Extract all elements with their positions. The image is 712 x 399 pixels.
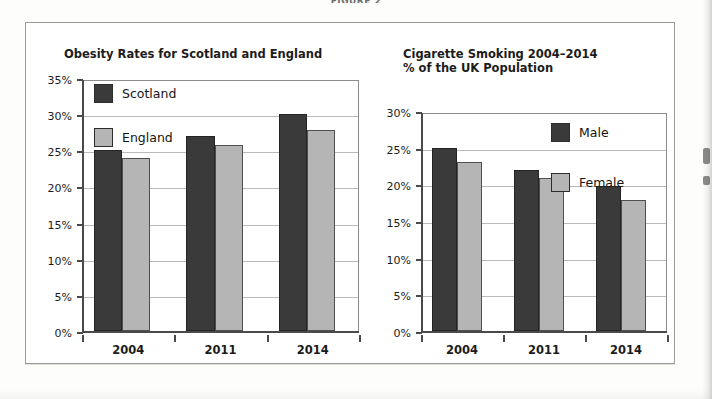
- y-tick-label: 15%: [374, 217, 411, 230]
- y-tick-label: 25%: [374, 143, 411, 156]
- y-tick-mark: [416, 112, 422, 114]
- legend-label-england: England: [122, 130, 173, 145]
- y-tick-mark: [416, 149, 422, 151]
- scan-blob-artifact-2: [703, 176, 710, 185]
- scanned-page: FIGURE 2 Obesity Rates for Scotland and …: [0, 0, 712, 399]
- y-tick-mark: [77, 260, 83, 262]
- y-tick-label: 0%: [26, 327, 72, 340]
- y-tick-label: 15%: [26, 218, 72, 231]
- y-tick-label: 5%: [26, 290, 72, 303]
- x-tick-mark: [174, 335, 176, 342]
- legend-label-male: Male: [579, 125, 609, 140]
- y-tick-label: 25%: [26, 146, 72, 159]
- y-tick-mark: [77, 332, 83, 334]
- legend-label-scotland: Scotland: [122, 86, 176, 101]
- x-tick-mark: [421, 335, 423, 342]
- y-tick-label: 30%: [374, 107, 411, 120]
- x-tick-label: 2004: [446, 343, 478, 357]
- x-tick-label: 2014: [610, 343, 642, 357]
- y-tick-mark: [77, 187, 83, 189]
- chart-cigarette-smoking: Cigarette Smoking 2004–2014 % of the UK …: [374, 23, 674, 363]
- y-tick-label: 30%: [26, 110, 72, 123]
- y-tick-mark: [77, 115, 83, 117]
- legend-item-england: England: [94, 128, 173, 147]
- scan-blob-artifact-1: [703, 148, 710, 164]
- y-tick-mark: [416, 332, 422, 334]
- legend-item-female: Female: [551, 173, 624, 192]
- y-tick-mark: [77, 151, 83, 153]
- y-tick-mark: [77, 296, 83, 298]
- y-tick-label: 35%: [26, 74, 72, 87]
- x-tick-mark: [503, 335, 505, 342]
- y-tick-label: 10%: [374, 253, 411, 266]
- y-tick-label: 20%: [26, 182, 72, 195]
- x-tick-label: 2011: [528, 343, 560, 357]
- gridline-35: [84, 80, 359, 81]
- legend-obesity: ScotlandEngland: [94, 84, 371, 194]
- x-tick-mark: [585, 335, 587, 342]
- legend-swatch-england: [94, 128, 113, 147]
- y-tick-label: 10%: [26, 254, 72, 267]
- y-tick-label: 5%: [374, 290, 411, 303]
- legend-swatch-male: [551, 123, 570, 142]
- y-tick-label: 20%: [374, 180, 411, 193]
- legend-item-male: Male: [551, 123, 609, 142]
- legend-label-female: Female: [579, 175, 624, 190]
- figure-caption: FIGURE 2: [0, 0, 712, 3]
- gridline-30: [423, 113, 667, 114]
- legend-item-scotland: Scotland: [94, 84, 176, 103]
- legend-swatch-female: [551, 173, 570, 192]
- x-tick-label: 2014: [297, 343, 329, 357]
- chart-title-smoking: Cigarette Smoking 2004–2014 % of the UK …: [403, 47, 598, 75]
- legend-swatch-scotland: [94, 84, 113, 103]
- chart-title-obesity: Obesity Rates for Scotland and England: [64, 47, 322, 61]
- y-tick-mark: [416, 185, 422, 187]
- y-tick-mark: [77, 79, 83, 81]
- bar-male-2004: [432, 148, 457, 331]
- chart-obesity-rates: Obesity Rates for Scotland and England S…: [26, 23, 374, 363]
- x-tick-mark: [82, 335, 84, 342]
- x-tick-mark-end: [667, 335, 669, 342]
- y-tick-label: 0%: [374, 327, 411, 340]
- y-tick-mark: [77, 224, 83, 226]
- x-tick-mark-end: [359, 335, 361, 342]
- bar-female-2004: [457, 162, 482, 331]
- legend-smoking: MaleFemale: [551, 123, 712, 233]
- x-tick-mark: [267, 335, 269, 342]
- x-tick-label: 2011: [204, 343, 236, 357]
- y-tick-mark: [416, 259, 422, 261]
- bar-male-2011: [514, 170, 539, 331]
- x-tick-label: 2004: [112, 343, 144, 357]
- y-tick-mark: [416, 295, 422, 297]
- figure-frame: Obesity Rates for Scotland and England S…: [25, 22, 675, 364]
- y-tick-mark: [416, 222, 422, 224]
- scan-bottom-artifact: [0, 390, 712, 399]
